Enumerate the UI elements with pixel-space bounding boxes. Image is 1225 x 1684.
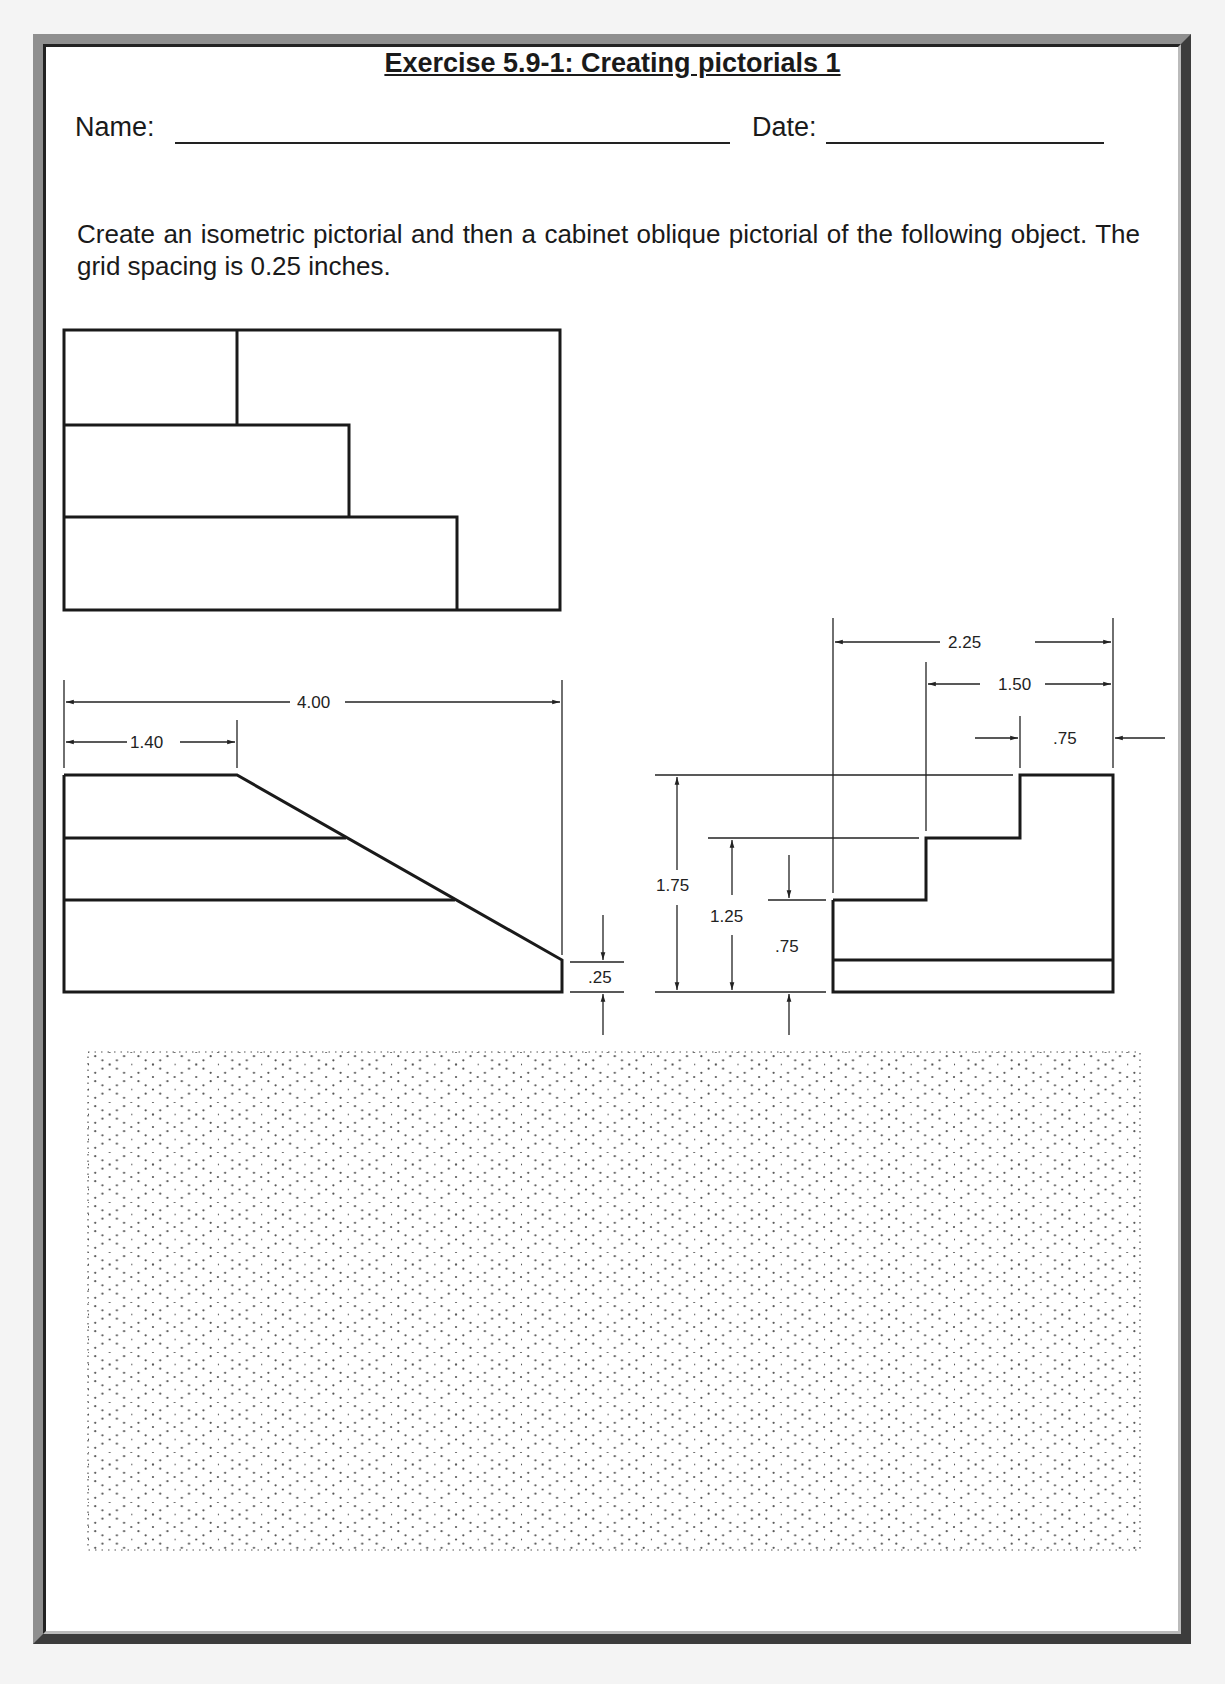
side-view: 2.25 1.50 .75 1.75 1.25 .75 xyxy=(655,618,1165,1035)
dim-4-00: 4.00 xyxy=(297,693,330,712)
isometric-grid xyxy=(88,1052,1140,1550)
dim-1-75: 1.75 xyxy=(656,876,689,895)
top-view xyxy=(64,330,560,610)
front-view: 4.00 1.40 .25 xyxy=(64,680,624,1035)
dim-0-75-top: .75 xyxy=(1053,729,1077,748)
dim-0-25: .25 xyxy=(588,968,612,987)
drawing-canvas: 4.00 1.40 .25 xyxy=(0,0,1225,1684)
dim-1-25: 1.25 xyxy=(710,907,743,926)
dim-2-25: 2.25 xyxy=(948,633,981,652)
dim-1-40: 1.40 xyxy=(130,733,163,752)
dim-0-75-low: .75 xyxy=(775,937,799,956)
dim-1-50: 1.50 xyxy=(998,675,1031,694)
